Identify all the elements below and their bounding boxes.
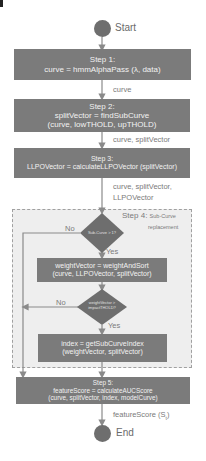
end-label: End (116, 427, 134, 438)
step3-title: Step 3: (91, 155, 113, 163)
start-node (94, 20, 111, 37)
edge-label-1: curve (113, 86, 131, 94)
step5-box: Step 5: featureScore = calculateAUCScore… (16, 377, 190, 404)
end-node (94, 425, 111, 442)
step2-line2: (curve, lowTHOLD, upTHOLD) (48, 120, 157, 129)
step4-subtitle: replacement (148, 224, 178, 230)
step2-line1: splitVector = findSubCurve (55, 111, 150, 120)
step1-box: Step 1: curve = hmmAlphaPass (λ, data) (14, 49, 191, 80)
edge-label-3b: LLPOVector (113, 194, 153, 202)
edge-label-2: curve, splitVector (113, 136, 170, 144)
decision1-text: Sub-Curve > 1? (82, 230, 122, 235)
decision1-no-label: No (65, 225, 75, 233)
step3-line: LLPOVector = calculateLLPOVector (splitV… (27, 163, 177, 171)
get-subcurve-index-box: index = getSubCurveIndex (weightVector, … (38, 334, 167, 362)
decision2-yes-label: Yes (108, 322, 120, 330)
step1-line: curve = hmmAlphaPass (λ, data) (44, 65, 160, 74)
decision2-no-label: No (56, 299, 66, 307)
step2-box: Step 2: splitVector = findSubCurve (curv… (14, 99, 190, 132)
step1-title: Step 1: (90, 55, 115, 64)
step5-line2: (curve, splitVector, index, modelCurve) (48, 394, 157, 401)
start-label: Start (115, 22, 136, 33)
decision2-text: weightVector > impactTHOLD? (80, 301, 124, 311)
step2-title: Step 2: (89, 102, 114, 111)
step3-box: Step 3: LLPOVector = calculateLLPOVector… (14, 148, 190, 178)
decision1-yes-label: Yes (106, 248, 118, 256)
weight-and-sort-box: weightVector = weightAndSort (curve, LLP… (37, 258, 167, 282)
step5-title: Step 5: (93, 379, 113, 386)
step5-line1: featureScore = calculateAUCScore (53, 387, 152, 394)
step4-title: Step 4: Sub-Curve (122, 212, 176, 221)
edge-label-3a: curve, splitVector, (113, 183, 172, 191)
edge-label-5: featureScore (St) (113, 411, 169, 421)
